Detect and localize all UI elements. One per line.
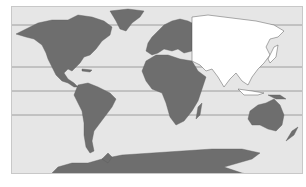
world-map: World map — Asia highlighted bbox=[11, 6, 303, 174]
map-canvas bbox=[12, 7, 303, 174]
